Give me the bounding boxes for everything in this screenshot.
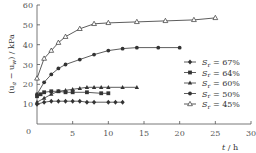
circle-filled-marker-icon: [35, 92, 39, 96]
legend: Sr = 67%Sr = 64%Sr = 60%Sr = 50%Sr = 45%: [184, 58, 240, 110]
x-tick-label: 25: [210, 129, 220, 138]
x-tick-label: 20: [175, 129, 185, 138]
square-filled-marker-icon: [188, 71, 192, 75]
y-tick-label: 50: [23, 21, 33, 30]
triangle-open-marker-icon: [106, 20, 111, 24]
x-tick-label: 10: [103, 129, 113, 138]
triangle-open-marker-icon: [56, 40, 61, 44]
y-ticks: 0102030405060: [23, 1, 40, 136]
y-tick-label: 60: [23, 1, 33, 10]
circle-filled-marker-icon: [156, 46, 160, 50]
triangle-open-marker-icon: [213, 15, 218, 19]
legend-item: Sr = 64%: [184, 69, 240, 79]
triangle-open-marker-icon: [63, 34, 68, 38]
series-line: [35, 99, 125, 107]
diamond-filled-marker-icon: [85, 100, 89, 105]
triangle-filled-marker-icon: [42, 96, 46, 100]
y-tick-label: 20: [23, 80, 33, 89]
legend-label: Sr = 50%: [202, 90, 240, 100]
circle-filled-marker-icon: [188, 92, 192, 96]
diamond-filled-marker-icon: [71, 99, 75, 104]
diamond-filled-marker-icon: [56, 99, 60, 104]
diamond-filled-marker-icon: [188, 60, 192, 65]
y-tick-label: 0: [26, 127, 31, 136]
x-tick-label: 5: [70, 129, 75, 138]
circle-filled-marker-icon: [64, 63, 68, 67]
square-filled-marker-icon: [42, 90, 46, 94]
diamond-filled-marker-icon: [49, 99, 53, 104]
square-filled-marker-icon: [39, 92, 43, 96]
y-tick-label: 30: [23, 61, 33, 70]
triangle-open-marker-icon: [35, 76, 40, 80]
diamond-filled-marker-icon: [106, 100, 110, 105]
circle-filled-marker-icon: [178, 46, 182, 50]
triangle-open-marker-icon: [134, 19, 139, 23]
square-filled-marker-icon: [85, 90, 89, 94]
diamond-filled-marker-icon: [42, 100, 46, 105]
circle-filled-marker-icon: [135, 46, 139, 50]
circle-filled-marker-icon: [78, 58, 82, 62]
diamond-filled-marker-icon: [121, 100, 125, 105]
y-axis-title: (ua − uw) / kPa: [7, 34, 17, 94]
x-axis-title: t / h: [222, 143, 238, 152]
circle-filled-marker-icon: [57, 67, 61, 71]
diamond-filled-marker-icon: [113, 100, 117, 105]
series-line: [35, 15, 218, 80]
square-filled-marker-icon: [106, 91, 110, 95]
diamond-filled-marker-icon: [63, 99, 67, 104]
legend-item: Sr = 67%: [184, 58, 240, 68]
y-tick-label: 10: [23, 100, 33, 109]
legend-label: Sr = 45%: [202, 100, 240, 110]
legend-item: Sr = 50%: [184, 90, 240, 100]
circle-filled-marker-icon: [49, 73, 53, 77]
square-filled-marker-icon: [99, 91, 103, 95]
y-tick-label: 40: [23, 41, 33, 50]
diamond-filled-marker-icon: [78, 99, 82, 104]
x-ticks: 51015202530: [70, 121, 256, 138]
x-tick-label: 30: [246, 129, 256, 138]
legend-label: Sr = 60%: [202, 79, 240, 89]
square-filled-marker-icon: [71, 90, 75, 94]
legend-label: Sr = 64%: [202, 69, 240, 79]
chart-canvas: 0102030405060 51015202530 (ua − uw) / kP…: [0, 0, 256, 153]
diamond-filled-marker-icon: [92, 100, 96, 105]
x-tick-label: 15: [139, 129, 149, 138]
circle-filled-marker-icon: [121, 47, 125, 51]
legend-item: Sr = 45%: [184, 100, 240, 110]
triangle-open-marker-icon: [163, 18, 168, 22]
circle-filled-marker-icon: [92, 53, 96, 57]
legend-label: Sr = 67%: [202, 58, 240, 68]
circle-filled-marker-icon: [106, 49, 110, 53]
triangle-open-marker-icon: [188, 101, 193, 105]
legend-item: Sr = 60%: [184, 79, 240, 89]
circle-filled-marker-icon: [42, 80, 46, 84]
